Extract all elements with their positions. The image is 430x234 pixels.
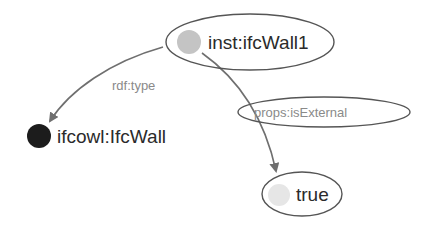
node-ifcowl-ifcwall[interactable]: ifcowl:IfcWall	[27, 124, 166, 148]
edge-rdf-type: rdf:type	[50, 47, 163, 121]
node-inst-ifcwall1[interactable]: inst:ifcWall1	[166, 14, 334, 70]
edge-label-rdf-type: rdf:type	[112, 78, 155, 93]
instance-dot-icon	[177, 30, 201, 54]
literal-dot-icon	[268, 184, 290, 206]
class-dot-icon	[27, 124, 51, 148]
node-true-literal[interactable]: true	[262, 172, 342, 216]
rdf-graph-diagram: rdf:type props:isExternal inst:ifcWall1 …	[0, 0, 430, 234]
edge-label-props-isexternal: props:isExternal	[254, 105, 347, 120]
node-label-inst-ifcwall1: inst:ifcWall1	[208, 32, 309, 53]
node-label-true: true	[296, 184, 329, 205]
edge-props-isexternal: props:isExternal	[202, 53, 410, 171]
node-label-ifcowl-ifcwall: ifcowl:IfcWall	[57, 126, 166, 147]
